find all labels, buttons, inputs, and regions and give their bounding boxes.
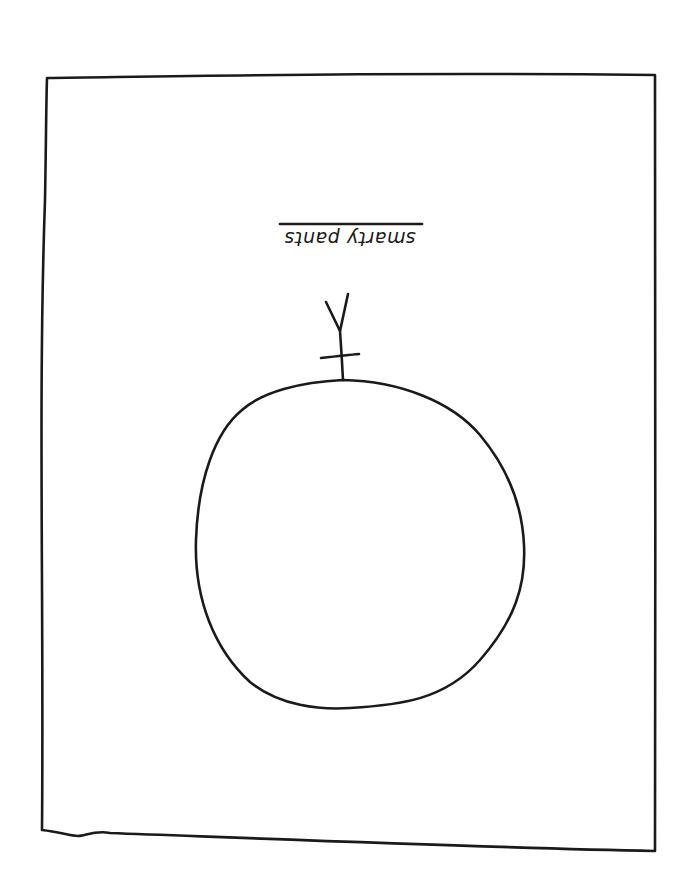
caption-group: smarty pants: [280, 224, 422, 250]
circle-body: [196, 380, 524, 708]
frame-border: [41, 74, 655, 851]
sprout-icon: [321, 294, 359, 380]
hand-drawn-sketch: smarty pants: [0, 0, 674, 896]
caption-text: smarty pants: [284, 228, 416, 250]
